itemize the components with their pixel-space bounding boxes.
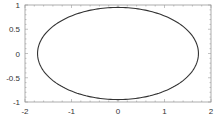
x-tick-label: -2 <box>21 107 29 116</box>
x-tick-label: 1 <box>162 107 167 116</box>
x-axis-tick-labels: -2-1012 <box>21 107 213 116</box>
y-tick-label: 0.5 <box>9 25 21 34</box>
y-tick-label: 1 <box>16 1 21 10</box>
y-axis-tick-labels: -1-0.500.51 <box>6 1 20 107</box>
x-axis-ticks <box>25 5 211 102</box>
plot-frame <box>25 5 211 102</box>
y-tick-label: -0.5 <box>6 74 20 83</box>
x-tick-label: 2 <box>209 107 214 116</box>
x-tick-label: -1 <box>68 107 76 116</box>
y-tick-label: -1 <box>13 98 21 107</box>
y-tick-label: 0 <box>16 50 21 59</box>
parametric-plot: -2-1012 -1-0.500.51 <box>0 0 217 117</box>
x-tick-label: 0 <box>116 107 121 116</box>
closed-curve-series <box>38 7 199 99</box>
y-axis-ticks <box>25 5 211 102</box>
